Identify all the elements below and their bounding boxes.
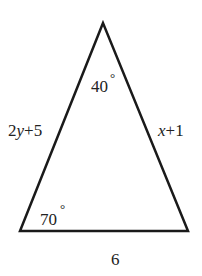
apex-angle-value: 40 xyxy=(91,77,108,96)
bottom-left-angle-label: 70 ° xyxy=(40,201,65,229)
degree-symbol: ° xyxy=(60,201,65,216)
base-side-label: 6 xyxy=(111,250,120,269)
left-side-coef: 2 xyxy=(8,121,17,140)
degree-symbol: ° xyxy=(110,70,115,85)
triangle-diagram: 40 ° 70 ° 2y+5 x+1 6 xyxy=(0,0,202,276)
bottom-left-angle-value: 70 xyxy=(40,210,57,229)
left-side-var: y xyxy=(15,121,25,140)
right-side-rest: +1 xyxy=(166,121,184,140)
left-side-rest: +5 xyxy=(24,121,42,140)
left-side-label: 2y+5 xyxy=(8,121,42,140)
right-side-label: x+1 xyxy=(157,121,184,140)
apex-angle-label: 40 ° xyxy=(91,70,115,96)
